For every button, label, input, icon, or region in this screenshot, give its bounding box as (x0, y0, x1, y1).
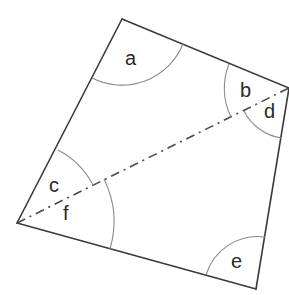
angle-arc-b (224, 64, 231, 117)
angle-label-a: a (125, 47, 137, 69)
angle-arc-c (58, 150, 93, 185)
angle-arc-f (104, 179, 114, 249)
edge-top-right (122, 19, 289, 88)
edge-bottom-left (17, 223, 256, 289)
angle-label-d: d (264, 100, 275, 122)
angle-label-c: c (49, 174, 59, 196)
quadrilateral-diagram: a b d c f e (0, 0, 289, 295)
angle-arc-d (244, 111, 282, 138)
edge-left-top (17, 19, 122, 223)
angle-label-b: b (240, 79, 251, 101)
angle-label-e: e (231, 250, 242, 272)
diagonal-line (17, 88, 289, 223)
angle-label-f: f (63, 202, 69, 224)
